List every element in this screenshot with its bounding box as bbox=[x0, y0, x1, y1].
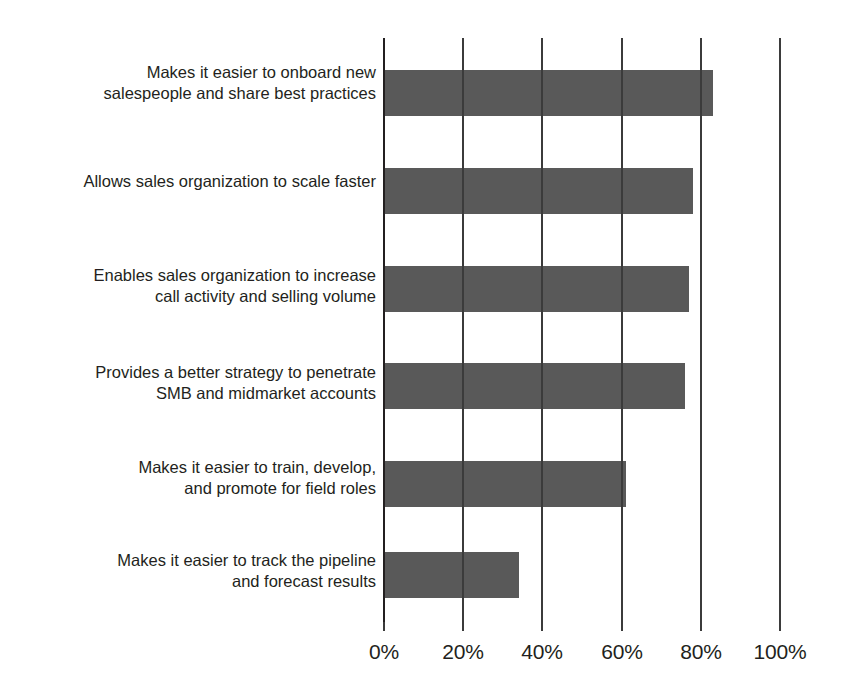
plot-area bbox=[384, 38, 780, 622]
x-tick-label-5: 100% bbox=[754, 640, 807, 664]
bar-2 bbox=[384, 266, 689, 312]
tick-60pct bbox=[621, 622, 623, 631]
x-tick-label-0: 0% bbox=[369, 640, 399, 664]
gridline-80pct bbox=[700, 38, 702, 622]
category-label-1: Allows sales organization to scale faste… bbox=[46, 171, 376, 192]
bar-0 bbox=[384, 70, 713, 116]
bar-1 bbox=[384, 168, 693, 214]
gridline-20pct bbox=[462, 38, 464, 622]
tick-100pct bbox=[779, 622, 781, 631]
gridline-40pct bbox=[541, 38, 543, 622]
bar-4 bbox=[384, 461, 626, 507]
tick-20pct bbox=[462, 622, 464, 631]
category-label-4: Makes it easier to train, develop, and p… bbox=[46, 457, 376, 499]
category-label-5: Makes it easier to track the pipeline an… bbox=[46, 550, 376, 592]
x-tick-label-1: 20% bbox=[442, 640, 483, 664]
tick-40pct bbox=[541, 622, 543, 631]
category-labels: Makes it easier to onboard new salespeop… bbox=[35, 0, 376, 698]
category-label-2: Enables sales organization to increase c… bbox=[46, 265, 376, 307]
gridline-60pct bbox=[621, 38, 623, 622]
bar-chart: Makes it easier to onboard new salespeop… bbox=[0, 0, 841, 698]
gridline-100pct bbox=[779, 38, 781, 622]
bar-5 bbox=[384, 552, 519, 598]
x-tick-label-3: 60% bbox=[601, 640, 642, 664]
x-tick-label-2: 40% bbox=[521, 640, 562, 664]
axis-line-0pct bbox=[383, 38, 385, 622]
tick-80pct bbox=[700, 622, 702, 631]
category-label-0: Makes it easier to onboard new salespeop… bbox=[46, 62, 376, 104]
bar-3 bbox=[384, 363, 685, 409]
x-tick-label-4: 80% bbox=[680, 640, 721, 664]
category-label-3: Provides a better strategy to penetrate … bbox=[46, 362, 376, 404]
tick-0pct bbox=[383, 622, 385, 631]
